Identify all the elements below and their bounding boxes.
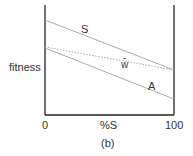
series-S-label: S [81, 23, 88, 35]
y-axis-label: fitness [9, 61, 41, 73]
series-wbar-label: w̄ [121, 59, 128, 70]
series-wbar-line [45, 47, 174, 70]
series-A-label: A [148, 80, 155, 92]
figure-caption: (b) [101, 137, 114, 149]
x-tick-100: 100 [165, 119, 183, 131]
series-S-line [45, 20, 174, 70]
x-axis-label: %S [100, 119, 117, 131]
chart-plot [0, 0, 193, 156]
x-tick-0: 0 [42, 119, 48, 131]
